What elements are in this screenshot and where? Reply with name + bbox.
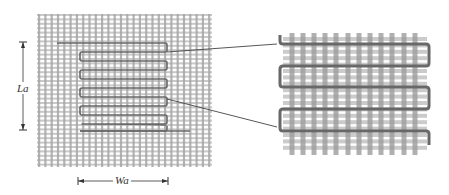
warp-yarn <box>139 14 141 167</box>
warp-yarn <box>95 14 97 167</box>
warp-yarn <box>183 14 185 167</box>
arrowhead-icon <box>21 124 25 130</box>
warp-yarn <box>51 14 53 167</box>
meander-path <box>57 43 167 131</box>
warp-yarn <box>57 14 59 167</box>
warp-yarn <box>70 14 72 167</box>
warp-yarn <box>208 14 210 167</box>
warp-yarn <box>88 14 90 167</box>
arrowhead-icon <box>162 179 168 183</box>
inset-warp-yarn <box>368 33 373 155</box>
warp-yarn <box>202 14 204 167</box>
inset-warp-yarn <box>379 33 384 155</box>
warp-yarn <box>107 14 109 167</box>
inset-warp-yarn <box>402 33 407 155</box>
warp-yarn <box>177 14 179 167</box>
inset-warp-yarn <box>413 33 418 155</box>
inset-warp-yarn <box>390 33 395 155</box>
warp-yarn <box>101 14 103 167</box>
warp-yarn <box>82 14 84 167</box>
warp-yarn <box>126 14 128 167</box>
warp-yarn <box>38 14 40 167</box>
warp-yarn <box>189 14 191 167</box>
arrowhead-icon <box>78 179 84 183</box>
inset-warp-yarn <box>334 33 339 155</box>
warp-yarn <box>63 14 65 167</box>
warp-yarn <box>196 14 198 167</box>
inset-woven-fabric <box>283 33 427 155</box>
main-woven-fabric <box>37 14 212 167</box>
fabric-diagram <box>0 0 449 195</box>
inset-warp-yarn <box>312 33 317 155</box>
inset-warp-yarn <box>346 33 351 155</box>
inset-warp-yarn <box>357 33 362 155</box>
warp-yarn <box>44 14 46 167</box>
warp-yarn <box>164 14 166 167</box>
warp-yarn <box>120 14 122 167</box>
inset-warp-yarn <box>290 33 295 155</box>
warp-yarn <box>114 14 116 167</box>
inset-warp-yarn <box>301 33 306 155</box>
warp-yarn <box>133 14 135 167</box>
warp-yarn <box>76 14 78 167</box>
warp-yarn <box>151 14 153 167</box>
arrowhead-icon <box>21 42 25 48</box>
width-label: Wa <box>113 174 131 186</box>
warp-yarn <box>170 14 172 167</box>
warp-yarn <box>158 14 160 167</box>
length-label: La <box>15 82 31 94</box>
warp-yarn <box>145 14 147 167</box>
inset-warp-yarn <box>323 33 328 155</box>
